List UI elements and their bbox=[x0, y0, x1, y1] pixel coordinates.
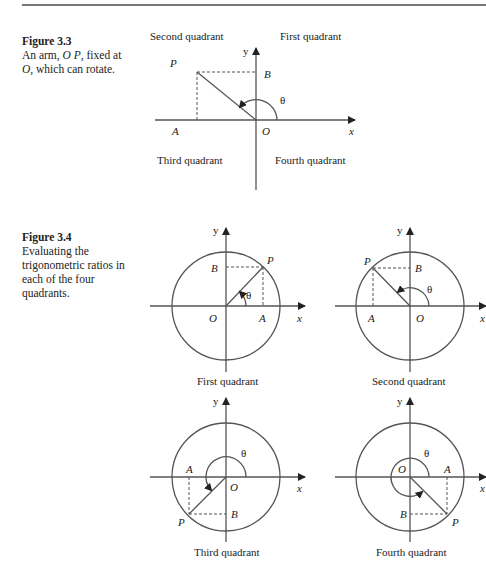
panel-title: First quadrant bbox=[197, 375, 258, 387]
y-axis-label: y bbox=[213, 395, 219, 407]
y-axis-label: y bbox=[397, 224, 403, 236]
x-axis-label: x bbox=[296, 482, 302, 494]
point-a: A bbox=[367, 312, 375, 324]
label-third-quadrant: Third quadrant bbox=[157, 154, 223, 166]
point-b: B bbox=[231, 508, 238, 520]
label-first-quadrant: First quadrant bbox=[280, 30, 341, 42]
angle-theta: θ bbox=[427, 283, 432, 295]
x-axis-label: x bbox=[479, 312, 485, 324]
point-a: A bbox=[258, 312, 266, 324]
point-b: B bbox=[415, 262, 422, 274]
figure-3-3-diagram bbox=[155, 48, 355, 190]
point-a: A bbox=[171, 125, 179, 137]
theta-arc bbox=[398, 288, 429, 306]
arm-op bbox=[373, 268, 410, 306]
point-o: O bbox=[209, 312, 217, 324]
y-axis-label: y bbox=[213, 224, 219, 236]
angle-theta: θ bbox=[241, 447, 246, 459]
point-o: O bbox=[398, 463, 406, 475]
panel-second-quadrant: y x P B A O θ Second quadrant bbox=[335, 224, 486, 387]
panel-third-quadrant: y x P B A O θ Third quadrant bbox=[150, 395, 305, 558]
point-o: O bbox=[230, 481, 238, 493]
angle-theta: θ bbox=[280, 94, 285, 106]
x-axis-label: x bbox=[348, 125, 354, 137]
figures-canvas: Second quadrant First quadrant Third qua… bbox=[0, 0, 486, 588]
point-b: B bbox=[400, 508, 407, 520]
point-p: P bbox=[451, 516, 459, 528]
point-p: P bbox=[363, 255, 371, 267]
panel-title: Third quadrant bbox=[194, 546, 260, 558]
figure-3-3-labels: Second quadrant First quadrant Third qua… bbox=[150, 30, 354, 166]
theta-arc bbox=[240, 100, 277, 120]
point-p: P bbox=[177, 516, 185, 528]
point-p: P bbox=[169, 57, 177, 69]
y-axis-label: y bbox=[397, 395, 403, 407]
label-second-quadrant: Second quadrant bbox=[150, 30, 224, 42]
panel-fourth-quadrant: y x P B A O θ Fourth quadrant bbox=[335, 395, 486, 558]
point-b: B bbox=[264, 68, 271, 80]
panel-title: Fourth quadrant bbox=[376, 546, 447, 558]
point-p: P bbox=[266, 254, 274, 266]
label-fourth-quadrant: Fourth quadrant bbox=[275, 154, 346, 166]
angle-theta: θ bbox=[246, 289, 251, 301]
point-b: B bbox=[211, 262, 218, 274]
point-a: A bbox=[443, 463, 451, 475]
panel-title: Second quadrant bbox=[372, 375, 446, 387]
point-a: A bbox=[185, 463, 193, 475]
x-axis-label: x bbox=[479, 482, 485, 494]
x-axis-label: x bbox=[296, 312, 302, 324]
panel-first-quadrant: y x P B A O θ First quadrant bbox=[150, 224, 305, 387]
angle-theta: θ bbox=[424, 447, 429, 459]
point-o: O bbox=[262, 125, 270, 137]
point-o: O bbox=[416, 312, 424, 324]
y-axis-label: y bbox=[243, 45, 249, 57]
arm-op bbox=[197, 72, 256, 120]
arm-op bbox=[189, 477, 226, 514]
